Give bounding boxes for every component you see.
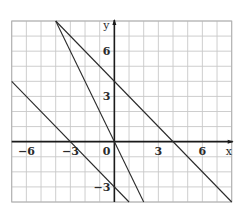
x-tick-label: 3: [155, 145, 163, 158]
x-axis-label: x: [226, 145, 233, 158]
x-tick-label: −6: [18, 145, 35, 158]
x-tick-label: 0: [103, 145, 111, 158]
y-tick-label: 3: [103, 90, 111, 103]
y-tick-label: 6: [103, 45, 111, 58]
x-axis-arrow-icon: [228, 140, 234, 144]
y-axis-arrow-icon: [112, 19, 116, 25]
y-tick-label: −3: [93, 181, 110, 194]
x-tick-label: 6: [199, 145, 207, 158]
grid: [12, 21, 232, 202]
y-axis-label: y: [102, 19, 110, 32]
axes: [12, 19, 234, 202]
coordinate-graph: −6−303663−3 x y: [0, 0, 245, 215]
x-tick-label: −3: [62, 145, 79, 158]
